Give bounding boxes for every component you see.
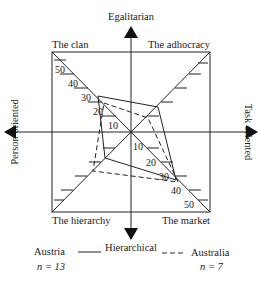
tick-label-market-10: 10: [133, 141, 143, 152]
axis-label-right: Task oriented: [243, 104, 254, 161]
quadrant-label-market: The market: [162, 215, 210, 226]
quadrant-label-adhocracy: The adhocracy: [148, 39, 211, 50]
quadrant-label-hierarchy: The hierarchy: [52, 215, 111, 226]
tick-label-clan-40: 40: [68, 78, 78, 89]
adhocracy-ticks: [147, 63, 208, 116]
competing-values-diagram: 10 20 30 40 50 10 20 30 40 50 Egalitaria…: [0, 0, 262, 284]
tick-label-market-40: 40: [171, 185, 181, 196]
quadrant-label-clan: The clan: [52, 39, 89, 50]
tick-label-clan-50: 50: [55, 64, 65, 75]
legend-australia-label: Australia: [191, 247, 230, 258]
axis-label-left: Person oriented: [9, 98, 20, 164]
tick-label-clan-10: 10: [108, 120, 118, 131]
tick-label-clan-30: 30: [81, 92, 91, 103]
hierarchy-ticks: [54, 148, 115, 200]
arrow-up-icon: [124, 26, 138, 38]
legend-australia-n: n = 7: [200, 261, 224, 272]
legend-austria-label: Austria: [34, 246, 65, 257]
tick-label-market-50: 50: [184, 199, 194, 210]
axis-label-top: Egalitarian: [108, 11, 155, 22]
axis-label-bottom: Hierarchical: [105, 242, 157, 253]
tick-label-market-20: 20: [146, 157, 156, 168]
legend-austria-n: n = 13: [37, 261, 65, 272]
arrow-down-icon: [124, 228, 138, 240]
